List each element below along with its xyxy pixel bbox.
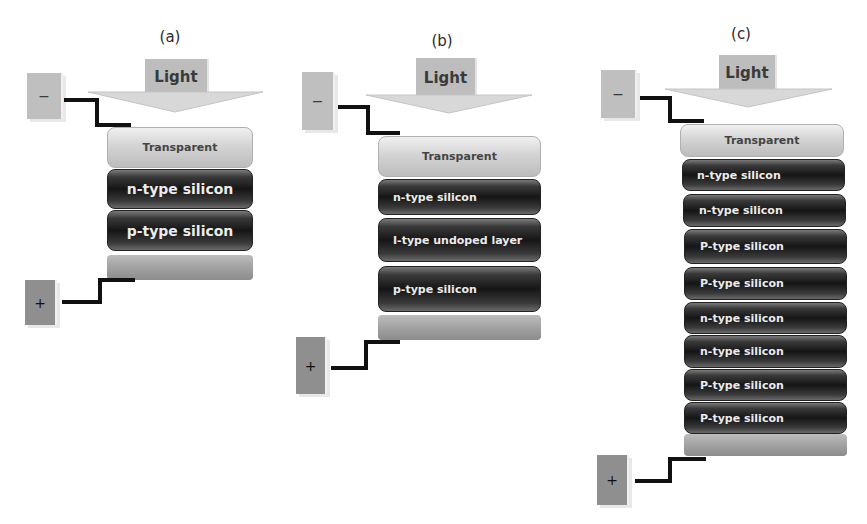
layer-base-contact (378, 315, 541, 340)
negative-terminal: − (27, 73, 63, 119)
layer-i-type-undoped: I-type undoped layer (378, 218, 541, 262)
panel-label-a: (a) (160, 28, 181, 46)
layer-transparent: Transparent (680, 124, 844, 157)
layer-p-type-silicon: P-type silicon (684, 229, 847, 264)
layer-base-contact (107, 255, 253, 280)
panel-label-b: (b) (431, 32, 452, 50)
light-arrow-icon (366, 93, 532, 115)
layer-transparent: Transparent (378, 136, 541, 177)
light-label-box: Light (719, 55, 775, 91)
layer-p-type-silicon: p-type silicon (378, 266, 541, 312)
layer-p-type-silicon: p-type silicon (107, 210, 253, 251)
negative-terminal: − (302, 72, 335, 130)
panel-label-c: (c) (731, 25, 751, 43)
layer-n-type-silicon: n-type silicon (684, 302, 847, 334)
light-arrow-icon (665, 87, 832, 109)
layer-p-type-silicon: P-type silicon (684, 369, 847, 401)
layer-n-type-silicon: n-type silicon (378, 179, 541, 215)
light-label-box: Light (416, 58, 475, 98)
layer-p-type-silicon: P-type silicon (684, 267, 847, 300)
layer-base-contact (684, 434, 847, 456)
positive-terminal: + (597, 455, 629, 505)
layer-n-type-silicon: n-type silicon (107, 169, 253, 209)
layer-n-type-silicon: n-type silicon (682, 159, 845, 191)
layer-n-type-silicon: n-type silicon (683, 194, 846, 227)
light-arrow-icon (88, 90, 263, 114)
layer-transparent: Transparent (107, 127, 253, 168)
positive-terminal: + (296, 337, 327, 394)
layer-n-type-silicon: n-type silicon (684, 335, 847, 368)
layer-p-type-silicon: P-type silicon (684, 402, 847, 434)
positive-terminal: + (25, 280, 57, 325)
negative-terminal: − (601, 70, 637, 118)
